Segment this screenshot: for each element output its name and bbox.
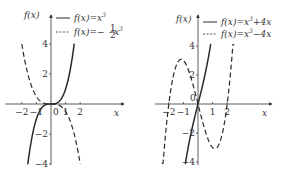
y-tick-label: 4 (189, 41, 195, 51)
left-legend-1: f(x)=x3 (73, 11, 106, 23)
y-tick-label: 2 (42, 69, 48, 79)
left-x-label: x (114, 108, 119, 118)
right-legend-1: f(x)=x3+4x (220, 15, 271, 27)
right-x-label: x (262, 108, 267, 118)
right-origin-label: 0 (190, 93, 196, 103)
x-tick-label: 1 (210, 107, 216, 117)
chart-figure: −2−11242−2−4 f(x) x 0 f(x)=x3 f(x)=− 1 2… (0, 0, 290, 177)
right-chart: −2−11242−2−4 f(x) x 0 f(x)=x3+4x f(x)=x3… (155, 14, 272, 167)
x-tick-label: −2 (15, 107, 28, 117)
right-y-label: f(x) (175, 14, 192, 24)
y-tick-label: −2 (35, 129, 48, 139)
right-legend-2: f(x)=x3−4x (220, 27, 271, 39)
left-chart: −2−11242−2−4 f(x) x 0 f(x)=x3 f(x)=− 1 2… (5, 10, 124, 169)
left-legend-2b: x3 (114, 25, 123, 37)
y-tick-label: 2 (189, 70, 195, 80)
left-y-label: f(x) (23, 10, 40, 20)
left-origin-label: 0 (53, 107, 59, 117)
x-tick-label: −1 (177, 107, 190, 117)
x-tick-label: 2 (77, 107, 83, 117)
y-tick-label: −4 (35, 159, 49, 169)
y-tick-label: −2 (182, 128, 195, 138)
y-tick-label: −4 (182, 157, 196, 167)
y-tick-label: 4 (42, 39, 48, 49)
left-legend-2: f(x)=− (73, 27, 105, 37)
